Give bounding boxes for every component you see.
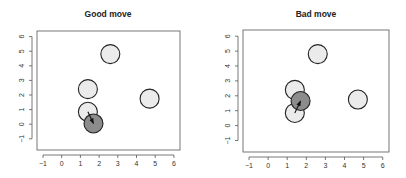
y-tick-label: 2 <box>18 93 25 97</box>
x-tick-label: −1 <box>245 162 253 169</box>
chart-title: Bad move <box>296 9 337 19</box>
chart-title: Good move <box>85 9 132 19</box>
y-tick-label: 5 <box>18 49 25 53</box>
y-tick-label: 3 <box>224 79 231 83</box>
y-tick-label: 2 <box>224 94 231 98</box>
y-axis: −10123456 <box>18 35 32 143</box>
x-tick-label: 6 <box>172 160 176 167</box>
y-tick-label: 0 <box>18 122 25 126</box>
y-tick-label: 1 <box>18 108 25 112</box>
x-tick-label: 0 <box>266 162 270 169</box>
y-tick-label: 3 <box>18 78 25 82</box>
plot-bad-move: Bad move−10123456−10123456 <box>224 9 389 169</box>
y-tick-label: −1 <box>224 136 231 144</box>
y-tick-label: 4 <box>224 64 231 68</box>
circles <box>78 45 159 133</box>
circle <box>140 89 159 108</box>
circle <box>308 45 327 64</box>
y-tick-label: −1 <box>18 135 25 143</box>
x-tick-label: 1 <box>285 162 289 169</box>
x-tick-label: 6 <box>381 162 385 169</box>
y-axis: −10123456 <box>224 34 238 144</box>
x-axis: −10123456 <box>245 157 385 169</box>
figure: Good move−10123456−10123456 Bad move−101… <box>0 0 406 178</box>
x-tick-label: 5 <box>153 160 157 167</box>
y-tick-label: 6 <box>224 34 231 38</box>
plot-good-move: Good move−10123456−10123456 <box>18 9 180 167</box>
x-tick-label: −1 <box>39 160 47 167</box>
x-tick-label: 1 <box>78 160 82 167</box>
x-tick-label: 5 <box>362 162 366 169</box>
x-tick-label: 4 <box>135 160 139 167</box>
x-tick-label: 2 <box>97 160 101 167</box>
x-axis: −10123456 <box>39 155 176 167</box>
circle <box>348 90 367 109</box>
y-tick-label: 6 <box>18 35 25 39</box>
x-tick-label: 3 <box>323 162 327 169</box>
y-tick-label: 5 <box>224 49 231 53</box>
x-tick-label: 3 <box>116 160 120 167</box>
y-tick-label: 1 <box>224 109 231 113</box>
x-tick-label: 4 <box>343 162 347 169</box>
circle <box>78 80 97 99</box>
y-tick-label: 4 <box>18 64 25 68</box>
y-tick-label: 0 <box>224 124 231 128</box>
circles <box>285 45 367 123</box>
circle <box>101 45 120 64</box>
x-tick-label: 0 <box>60 160 64 167</box>
x-tick-label: 2 <box>304 162 308 169</box>
